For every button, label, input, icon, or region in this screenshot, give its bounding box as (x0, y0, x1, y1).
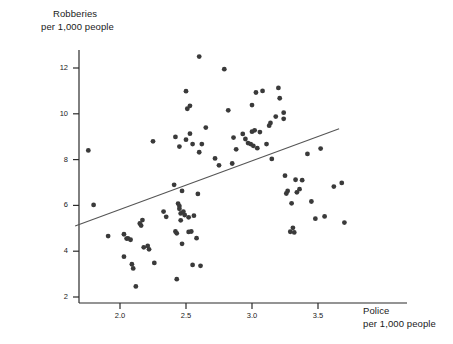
data-point (129, 262, 134, 267)
data-point (313, 216, 318, 221)
data-point (269, 157, 274, 162)
data-point (128, 237, 133, 242)
data-point (174, 231, 179, 236)
data-point (277, 96, 282, 101)
data-point (213, 156, 218, 161)
data-point (140, 218, 145, 223)
data-point (293, 177, 298, 182)
data-points-group (86, 54, 347, 289)
data-point (195, 192, 200, 197)
x-axis-title-line-1: Police (363, 305, 436, 318)
data-point (152, 260, 157, 265)
data-point (131, 266, 136, 271)
x-axis-tick-label: 2.5 (173, 311, 199, 320)
data-point (122, 254, 127, 259)
data-point (192, 213, 197, 218)
data-point (281, 110, 286, 115)
data-point (339, 181, 344, 186)
data-point (147, 247, 152, 252)
regression-line (75, 129, 339, 226)
y-axis-tick-label: 2 (52, 292, 68, 301)
data-point (254, 90, 259, 95)
data-point (122, 232, 127, 237)
y-axis-tick-label: 8 (52, 155, 68, 164)
data-point (297, 187, 302, 192)
data-point (234, 147, 239, 152)
data-point (91, 203, 96, 208)
data-point (174, 277, 179, 282)
data-point (189, 229, 194, 234)
y-axis-tick-label: 12 (52, 63, 68, 72)
data-point (309, 199, 314, 204)
x-axis-tick-label: 3.5 (305, 311, 331, 320)
data-point (240, 132, 245, 137)
y-axis-title-line-2: per 1,000 people (41, 21, 114, 34)
x-axis-tick-label: 3.0 (239, 311, 265, 320)
data-point (186, 215, 191, 220)
data-point (86, 148, 91, 153)
data-point (281, 116, 286, 121)
y-axis-tick-marks (73, 68, 79, 297)
data-point (255, 146, 260, 151)
data-point (190, 142, 195, 147)
data-point (133, 284, 138, 289)
data-point (188, 131, 193, 136)
data-point (198, 263, 203, 268)
data-point (260, 89, 265, 94)
y-axis-tick-label: 10 (52, 109, 68, 118)
data-point (283, 173, 288, 178)
data-point (180, 189, 185, 194)
data-point (177, 144, 182, 149)
data-point (258, 130, 263, 135)
data-point (300, 178, 305, 183)
x-axis-tick-label: 2.0 (107, 311, 133, 320)
data-point (305, 151, 310, 156)
x-axis-title-line-2: per 1,000 people (363, 318, 436, 331)
data-point (250, 103, 255, 108)
data-point (199, 142, 204, 147)
data-point (268, 121, 273, 126)
data-point (331, 184, 336, 189)
data-point (161, 209, 166, 214)
data-point (226, 108, 231, 113)
data-point (231, 135, 236, 140)
trendline-group (75, 129, 339, 226)
y-axis-title: Robberies per 1,000 people (41, 8, 114, 33)
data-point (217, 163, 222, 168)
axis-lines (79, 50, 407, 303)
data-point (222, 67, 227, 72)
y-axis-tick-label: 4 (52, 246, 68, 255)
data-point (289, 201, 294, 206)
data-point (342, 220, 347, 225)
data-point (243, 137, 248, 142)
data-point (230, 161, 235, 166)
data-point (172, 182, 177, 187)
data-point (194, 236, 199, 241)
x-axis-tick-marks (120, 303, 318, 309)
data-point (203, 125, 208, 130)
data-point (177, 204, 182, 209)
y-axis-title-line-1: Robberies (53, 8, 114, 21)
data-point (264, 142, 269, 147)
data-point (178, 218, 183, 223)
data-point (164, 214, 169, 219)
data-point (190, 263, 195, 268)
data-point (184, 89, 189, 94)
data-point (180, 241, 185, 246)
data-point (291, 225, 296, 230)
y-axis-tick-label: 6 (52, 200, 68, 209)
data-point (273, 114, 278, 119)
data-point (151, 139, 156, 144)
data-point (139, 223, 144, 228)
data-point (252, 128, 257, 133)
data-point (197, 54, 202, 59)
data-point (173, 135, 178, 140)
data-point (322, 214, 327, 219)
data-point (188, 103, 193, 108)
data-point (106, 234, 111, 239)
x-axis-title: Police per 1,000 people (363, 305, 436, 330)
data-point (292, 230, 297, 235)
data-point (318, 146, 323, 151)
scatter-plot-figure: Robberies per 1,000 people Police per 1,… (0, 0, 453, 344)
data-point (184, 137, 189, 142)
